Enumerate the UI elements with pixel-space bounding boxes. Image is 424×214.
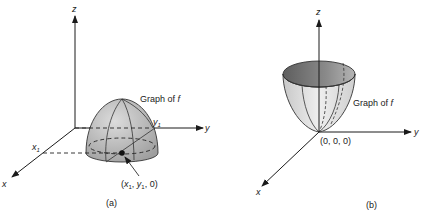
x-label-b: x xyxy=(255,187,261,197)
caption-a: (a) xyxy=(106,198,117,208)
surface-label-a: Graph of f xyxy=(140,94,182,104)
y-label-b: y xyxy=(413,127,419,137)
x-label-a: x xyxy=(1,179,7,189)
z-label-b: z xyxy=(315,7,321,17)
panel-a: z y x Graph of f x1 y1 (x1, y1, 0) (a) xyxy=(1,4,210,208)
x1-label: x1 xyxy=(31,142,40,153)
x-axis-b xyxy=(262,132,319,186)
y-label-a: y xyxy=(204,123,210,133)
caption-b: (b) xyxy=(366,200,377,210)
panel-b: z y x Graph of f (0, 0, 0) (b) xyxy=(255,7,419,210)
origin-label-b: (0, 0, 0) xyxy=(320,136,351,146)
y1-label: y1 xyxy=(152,117,161,128)
figure-canvas: z y x Graph of f x1 y1 (x1, y1, 0) (a) xyxy=(0,0,424,214)
point-x1-y1 xyxy=(119,150,125,156)
z-label-a: z xyxy=(71,4,77,14)
bowl-surface xyxy=(283,61,355,132)
x-axis-a xyxy=(12,128,75,177)
point-label: (x1, y1, 0) xyxy=(121,179,158,190)
surface-label-b: Graph of f xyxy=(353,98,395,108)
